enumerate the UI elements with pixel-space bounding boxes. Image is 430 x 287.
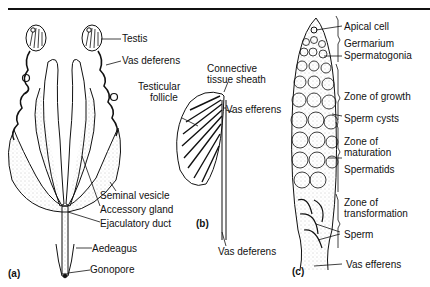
label-apical-cell: Apical cell	[344, 21, 389, 32]
label-gonopore: Gonopore	[90, 264, 134, 275]
panel-a-drawing	[8, 25, 120, 278]
panel-marker-a: (a)	[8, 268, 20, 279]
testis-left	[26, 25, 46, 51]
label-zone-of-maturation-line1: Zone of	[344, 136, 378, 147]
label-zone-of-transformation-line2: transformation	[344, 208, 408, 219]
label-zone-of-growth: Zone of growth	[344, 91, 411, 102]
testis-right	[82, 25, 102, 51]
label-connective-sheath-line1: Connective	[207, 63, 257, 74]
label-vas-deferens-b: Vas deferens	[218, 246, 276, 257]
label-ejaculatory-duct: Ejaculatory duct	[100, 218, 171, 229]
label-sperm-cysts: Sperm cysts	[344, 113, 399, 124]
label-zone-of-transformation-line1: Zone of	[344, 197, 378, 208]
label-aedeagus: Aedeagus	[92, 243, 137, 254]
label-spermatids: Spermatids	[344, 164, 395, 175]
label-vas-efferens-c: Vas efferens	[346, 259, 401, 270]
label-sperm: Sperm	[344, 229, 373, 240]
label-testicular-follicle-line2: follicle	[150, 92, 178, 103]
label-zone-of-maturation-line2: maturation	[344, 147, 391, 158]
label-testis: Testis	[122, 33, 148, 44]
label-vas-deferens-a: Vas deferens	[122, 55, 180, 66]
panel-marker-c: (c)	[292, 266, 304, 277]
panel-marker-b: (b)	[196, 218, 209, 229]
label-vas-efferens-b: Vas efferens	[226, 104, 281, 115]
label-accessory-gland: Accessory gland	[100, 204, 173, 215]
label-germarium: Germarium	[344, 38, 394, 49]
label-spermatogonia: Spermatogonia	[344, 50, 412, 61]
label-testicular-follicle-line1: Testicular	[138, 81, 180, 92]
label-seminal-vesicle: Seminal vesicle	[100, 190, 169, 201]
label-connective-sheath-line2: tissue sheath	[207, 74, 266, 85]
